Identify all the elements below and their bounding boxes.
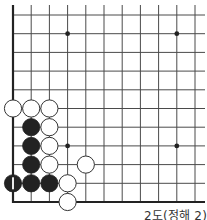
white-stone: [41, 156, 58, 173]
star-point: [174, 31, 179, 36]
black-stone: [23, 137, 40, 154]
black-stone: [4, 175, 21, 192]
white-stone-body: [59, 193, 76, 210]
diagram-caption: 2도(정해 2): [144, 206, 207, 220]
white-stone-body: [41, 119, 58, 136]
white-stone-body: [41, 156, 58, 173]
white-stone-body: [77, 156, 94, 173]
white-stone: [4, 100, 21, 117]
white-stone: [23, 100, 40, 117]
white-stone: [41, 100, 58, 117]
white-stone-body: [4, 100, 21, 117]
black-stone: [41, 175, 58, 192]
move-number-mark: [12, 177, 14, 189]
white-stone: [41, 119, 58, 136]
star-point: [65, 31, 70, 36]
star-point: [174, 144, 179, 149]
white-stone: [59, 193, 76, 210]
white-stone-body: [23, 100, 40, 117]
black-stone-body: [23, 137, 40, 154]
black-stone-body: [41, 175, 58, 192]
white-stone: [77, 156, 94, 173]
white-stone: [59, 175, 76, 192]
black-stone-body: [23, 119, 40, 136]
black-stone: [23, 119, 40, 136]
black-stone: [23, 175, 40, 192]
go-board: [0, 0, 207, 220]
white-stone-body: [59, 175, 76, 192]
white-stone-body: [41, 137, 58, 154]
black-stone: [23, 156, 40, 173]
star-point: [65, 144, 70, 149]
black-stone-body: [23, 156, 40, 173]
white-stone-body: [41, 100, 58, 117]
black-stone-body: [23, 175, 40, 192]
white-stone: [41, 137, 58, 154]
